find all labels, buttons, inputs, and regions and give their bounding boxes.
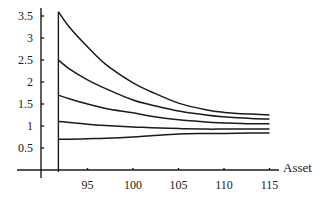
plot-curves	[58, 12, 269, 140]
y-tick-label: 3.5	[18, 9, 33, 23]
x-tick-label: 105	[170, 178, 188, 192]
series-curve-1	[58, 12, 269, 115]
y-tick-label: 1.5	[18, 97, 33, 111]
x-tick-label: 110	[215, 178, 233, 192]
y-axis: 0.511.522.533.5	[18, 8, 44, 178]
x-axis: 95100105110115	[17, 168, 279, 192]
y-tick-label: 2.5	[18, 53, 33, 67]
x-tick-label: 95	[82, 178, 94, 192]
y-tick-label: 0.5	[18, 141, 33, 155]
series-curve-5	[58, 133, 269, 139]
x-axis-label: Asset	[283, 160, 312, 175]
line-chart: 0.511.522.533.5 95100105110115 Asset	[0, 0, 324, 201]
x-tick-label: 115	[261, 178, 279, 192]
series-curve-3	[58, 95, 269, 124]
y-tick-label: 2	[27, 75, 33, 89]
y-tick-label: 3	[27, 31, 33, 45]
series-curve-2	[58, 60, 269, 119]
x-tick-label: 100	[124, 178, 142, 192]
y-tick-label: 1	[27, 119, 33, 133]
